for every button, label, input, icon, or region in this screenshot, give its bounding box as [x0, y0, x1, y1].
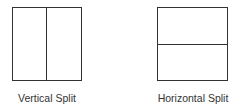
horizontal-split-label: Horizontal Split	[148, 92, 238, 104]
vertical-split-label: Vertical Split	[0, 92, 94, 104]
horizontal-divider	[157, 44, 228, 45]
vertical-split-box	[12, 7, 82, 81]
vertical-divider	[46, 7, 47, 81]
